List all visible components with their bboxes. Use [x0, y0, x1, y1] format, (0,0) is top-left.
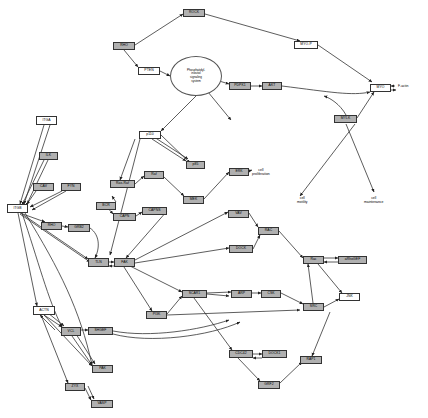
pathway-node-itgb[interactable]: ITGB	[7, 204, 28, 213]
pathway-node-p110[interactable]: p110	[139, 131, 161, 139]
pathway-node-rho[interactable]: RHO	[41, 222, 62, 230]
pathway-node-itga[interactable]: ITGA	[36, 116, 57, 125]
process-label: cell motility	[297, 196, 308, 204]
process-label: cell maintenance	[364, 196, 383, 204]
pathway-node-actn[interactable]: ACTN	[33, 306, 55, 315]
pathway-node-fyn[interactable]: FYN	[61, 183, 81, 191]
process-label: cell proliferation	[252, 168, 270, 176]
pathway-node-pdpk1[interactable]: PDPK1	[229, 82, 251, 90]
pathway-node-mek[interactable]: MEK	[183, 196, 204, 204]
pathway-node-csk[interactable]: CSK	[261, 290, 281, 298]
pathway-node-dock1[interactable]: DOCK1	[262, 350, 287, 358]
pathway-node-raf[interactable]: Raf	[144, 171, 164, 179]
pathway-node-grf2[interactable]: GRF2	[258, 381, 280, 389]
pathway-node-pten[interactable]: PTEN	[138, 67, 160, 75]
pathway-node-p85[interactable]: p85	[186, 161, 205, 169]
pathway-node-zyx[interactable]: ZYX	[65, 383, 85, 391]
pathway-node-myo[interactable]: MYO	[370, 84, 391, 92]
pathway-node-tln[interactable]: TLN	[88, 258, 109, 267]
pathway-canvas: ROCKRHOPTENMYO-PPDPK1AKTMYOMYLKITGAp110I…	[0, 0, 428, 418]
pathway-node-src[interactable]: SRC	[303, 303, 324, 311]
pathway-node-pak[interactable]: PAK	[92, 365, 113, 373]
pathway-node-scar1[interactable]: SCAR1	[182, 290, 207, 298]
pathway-node-myo-p[interactable]: MYO-P	[294, 41, 318, 49]
pathway-node-dock[interactable]: DOCK	[229, 245, 253, 253]
pathway-node-arp[interactable]: ARP	[231, 290, 252, 298]
pathway-node-bcr[interactable]: BCR	[96, 202, 116, 210]
pathway-node-vav[interactable]: VAV	[228, 210, 249, 218]
pathway-node-pi3k[interactable]: PI3K	[146, 311, 167, 319]
pathway-node-cdc42[interactable]: CDC42	[229, 350, 253, 358]
pathway-node-jnk[interactable]: JNK	[339, 293, 360, 301]
pathway-node-rac[interactable]: Rac	[303, 256, 324, 264]
pathway-node-rap1[interactable]: RAP1	[300, 356, 322, 364]
pathway-node-arhogef[interactable]: aRhoGEF	[338, 256, 367, 264]
pathway-node-cav[interactable]: CAV	[33, 183, 54, 191]
pathway-node-grb2[interactable]: GRB2	[68, 224, 90, 232]
pathway-node-erk[interactable]: ERK	[229, 168, 249, 176]
pathway-node-akt[interactable]: AKT	[262, 82, 282, 90]
pathway-node-rac[interactable]: RAC	[258, 227, 279, 235]
pathway-node-vcl[interactable]: VCL	[61, 327, 81, 336]
pathway-node-capn[interactable]: CAPN	[113, 213, 136, 221]
pathway-link-ellipse[interactable]: Phosphatidyl- inositol signaling system	[170, 56, 222, 96]
free-label-f-actin: F-actin	[398, 84, 408, 88]
pathway-node-vasp[interactable]: VASP	[91, 400, 113, 408]
pathway-node-shgef[interactable]: SHGEF	[88, 327, 113, 335]
pathway-node-mylk[interactable]: MYLK	[334, 115, 357, 123]
pathway-node-ilk[interactable]: ILK	[39, 152, 58, 160]
pathway-node-fak[interactable]: FAK	[114, 258, 135, 267]
pathway-node-rho[interactable]: RHO	[113, 42, 135, 50]
pathway-node-ras-raf[interactable]: Ras-Raf	[110, 180, 135, 188]
pathway-node-capns[interactable]: CAPNS	[142, 207, 167, 215]
pathway-node-rock[interactable]: ROCK	[183, 9, 205, 17]
